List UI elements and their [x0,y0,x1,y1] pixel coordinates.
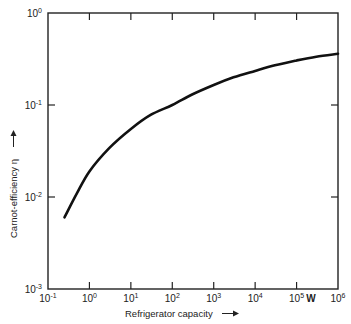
y-tick-label: 100 [27,7,42,19]
y-tick-labels: 10010-110-210-3 [25,7,42,295]
x-tick-label: 10-1 [39,292,56,304]
y-tick-label: 10-1 [25,99,42,111]
y-axis-arrow-icon [11,130,17,147]
x-tick-label: 102 [165,292,180,304]
axis-ticks [48,13,338,289]
y-tick-label: 10-2 [25,191,42,203]
x-axis-title: Refrigerator capacity [125,308,239,319]
carnot-efficiency-chart: 10-1100101102103104105106 10010-110-210-… [0,0,351,324]
x-axis-arrow-icon [222,311,239,317]
x-tick-labels: 10-1100101102103104105106 [39,292,345,304]
y-axis-title: Carnot-efficiency η [8,130,19,238]
x-tick-label: 100 [82,292,97,304]
x-tick-label: 101 [123,292,138,304]
x-tick-label: 104 [248,292,263,304]
plot-frame [48,13,338,289]
x-tick-label: 105 [289,292,304,304]
efficiency-curve [65,54,339,218]
x-axis-label: Refrigerator capacity [125,308,213,319]
y-axis-label: Carnot-efficiency η [8,159,19,238]
x-unit-label: W [306,293,316,304]
x-tick-label: 106 [330,292,345,304]
x-tick-label: 103 [206,292,221,304]
